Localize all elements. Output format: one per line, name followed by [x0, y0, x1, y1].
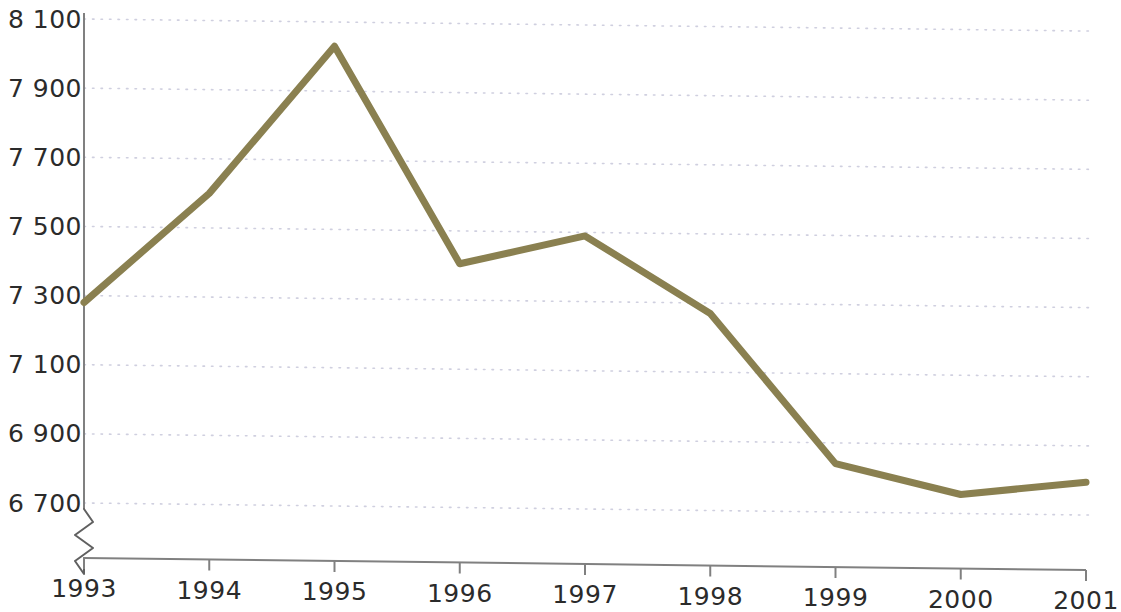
- y-axis-tick-text: 6 700: [8, 489, 82, 518]
- x-axis-tick-text: 1999: [803, 583, 869, 612]
- y-axis-tick-label-6700: 6 700: [4, 488, 82, 518]
- y-axis-tick-text: 7 100: [8, 350, 82, 379]
- x-axis-tick-label-1994: 1994: [149, 576, 269, 605]
- x-axis-tick-label-1993: 1993: [24, 574, 144, 603]
- x-axis-tick-label-1997: 1997: [525, 580, 645, 609]
- y-axis-tick-label-7500: 7 500: [4, 211, 82, 241]
- y-axis-tick-text: 8 100: [8, 5, 82, 34]
- x-axis-tick-label-1999: 1999: [776, 583, 896, 612]
- gridlines: [84, 19, 1090, 515]
- gridline-7900: [84, 88, 1090, 100]
- x-axis-tick-text: 1997: [552, 580, 618, 609]
- x-axis-tick-text: 1998: [677, 582, 743, 611]
- y-axis-tick-label-6900: 6 900: [4, 419, 82, 449]
- gridline-7100: [84, 365, 1090, 377]
- x-axis-tick-label-2001: 2001: [1026, 586, 1121, 612]
- y-axis-tick-text: 6 900: [8, 419, 82, 448]
- x-axis-tick-text: 2000: [928, 585, 994, 612]
- x-axis-tick-text: 1995: [302, 577, 368, 606]
- y-axis-tick-text: 7 500: [8, 212, 82, 241]
- y-axis-tick-text: 7 900: [8, 74, 82, 103]
- gridline-6700: [84, 503, 1090, 515]
- x-axis-tick-text: 1996: [427, 579, 493, 608]
- x-axis-tick-label-1996: 1996: [400, 579, 520, 608]
- y-axis-tick-label-7900: 7 900: [4, 73, 82, 103]
- x-axis-tick-label-2000: 2000: [901, 585, 1021, 612]
- y-axis-tick-text: 7 700: [8, 143, 82, 172]
- x-axis-tick-text: 2001: [1053, 586, 1119, 612]
- x-axis-tick-text: 1994: [176, 576, 242, 605]
- y-axis-tick-label-7700: 7 700: [4, 142, 82, 172]
- y-axis-tick-label-8100: 8 100: [4, 4, 82, 34]
- y-axis-tick-label-7100: 7 100: [4, 350, 82, 380]
- x-axis-tick-label-1995: 1995: [275, 577, 395, 606]
- x-axis-tick-text: 1993: [51, 574, 117, 603]
- y-axis-tick-label-7300: 7 300: [4, 281, 82, 311]
- data-series-line: [84, 46, 1086, 494]
- x-axis-tick-label-1998: 1998: [650, 582, 770, 611]
- gridline-7300: [84, 296, 1090, 308]
- y-axis-tick-text: 7 300: [8, 281, 82, 310]
- gridline-6900: [84, 434, 1090, 446]
- gridline-8100: [84, 19, 1090, 31]
